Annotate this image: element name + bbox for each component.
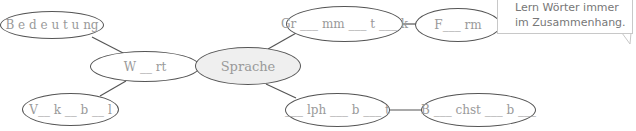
node-bedeutung-label: B e d e u t u ng [5,18,98,32]
node-form: F___ rm [415,8,501,42]
node-grammatik: Gr ___ mm ___ t ___ k [286,6,403,42]
node-vokabel-label: V__ k __ b __ l [29,103,112,117]
tip-line-1: Lern Wörter immer [515,0,632,15]
speech-bubble-tail [622,33,631,44]
node-sprache-center: Sprache [195,47,301,85]
node-wort: W __ rt [90,51,200,82]
node-sprache-label: Sprache [221,59,276,74]
node-form-label: F___ rm [434,18,481,32]
node-buchstabe: B ___ chst ___ b ___ [421,93,536,127]
line-sprache-alphabet [266,84,296,98]
line-bedeutung-wort [92,37,125,54]
node-bedeutung: B e d e u t u ng [0,11,104,39]
node-grammatik-label: Gr ___ mm ___ t ___ k [281,17,408,31]
tip-speech-bubble: Lern Wörter immer im Zusammenhang. [497,0,633,34]
line-sprache-grammatik [268,32,298,49]
node-buchstabe-label: B ___ chst ___ b ___ [421,103,536,117]
node-alphabet-label: ___ lph ___ b ___ t [285,103,390,117]
node-alphabet: ___ lph ___ b ___ t [285,93,390,127]
node-wort-label: W __ rt [124,60,167,74]
tip-line-2: im Zusammenhang. [515,15,632,30]
node-vokabel: V__ k __ b __ l [22,93,119,126]
line-wort-vokabel [100,81,126,96]
